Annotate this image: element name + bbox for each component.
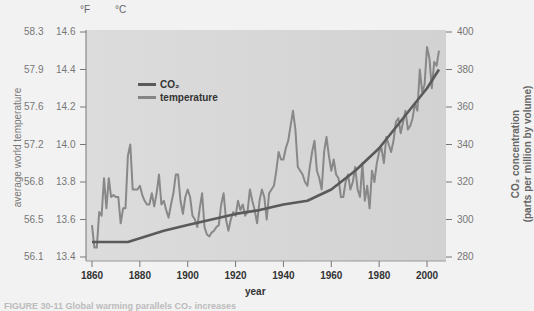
figure-caption: FIGURE 30-11 Global warming parallels CO… [4,301,236,311]
legend-temperature-label: temperature [160,92,218,103]
legend: CO₂ temperature [138,78,218,104]
legend-co2-label: CO₂ [160,79,179,90]
right-axis-title: CO₂ concentration (parts per million by … [510,84,534,224]
legend-item-co2: CO₂ [138,78,218,91]
right-axis-title-line2: (parts per million by volume) [522,84,534,224]
temperature-swatch-icon [138,96,156,99]
co2-swatch-icon [138,83,156,86]
legend-item-temperature: temperature [138,91,218,104]
